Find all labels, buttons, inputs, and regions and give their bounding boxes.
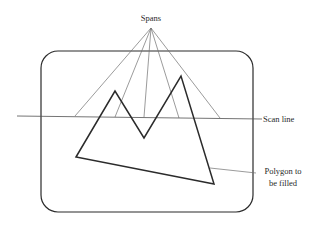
- scan-line-label: Scan line: [263, 114, 295, 124]
- span-leader-2: [115, 28, 151, 117]
- spans-label: Spans: [141, 13, 161, 23]
- polygon-to-fill: [76, 76, 214, 184]
- polygon-label-line2: be filled: [269, 178, 298, 188]
- span-leader-1: [75, 28, 151, 116]
- scan-line-fill-diagram: Spans Scan line Polygon to be filled: [0, 0, 321, 227]
- scan-line: [17, 116, 262, 119]
- span-leader-4: [151, 28, 179, 118]
- span-leader-5: [151, 28, 220, 118]
- span-leader-3: [144, 28, 151, 117]
- polygon-leader: [210, 168, 256, 173]
- span-leaders: [75, 28, 220, 118]
- polygon-label-line1: Polygon to: [264, 166, 301, 176]
